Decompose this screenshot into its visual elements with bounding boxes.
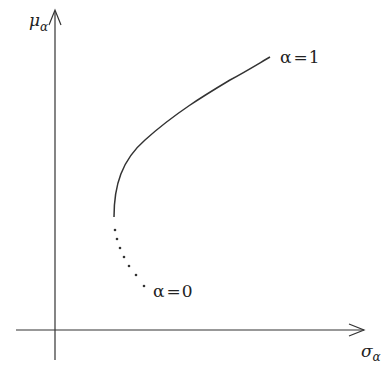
x-axis-label: σα — [361, 341, 381, 364]
y-axis — [49, 10, 61, 360]
x-axis — [16, 324, 364, 336]
alpha-1-label: α=1 — [280, 47, 320, 67]
diagram-canvas: μα σα α=1 α=0 — [0, 0, 389, 371]
frontier-solid-curve — [114, 57, 270, 217]
y-axis-label: μα — [29, 10, 48, 34]
frontier-dotted-curve — [114, 229, 146, 288]
alpha-0-label: α=0 — [153, 281, 193, 301]
